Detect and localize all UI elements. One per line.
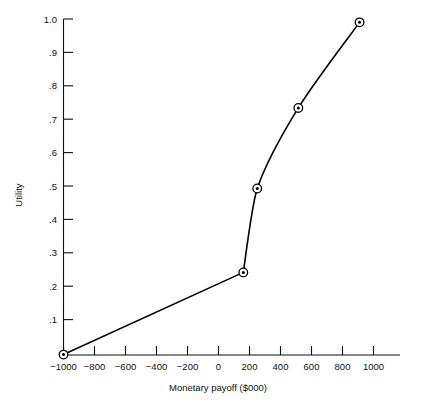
- utility-curve: [64, 22, 360, 354]
- y-axis-title: Utility: [13, 183, 24, 206]
- y-tick-label: .6: [49, 147, 57, 158]
- x-tick-label: −600: [115, 361, 136, 372]
- x-tick-label: 0: [216, 361, 221, 372]
- y-tick-marks: [64, 19, 74, 320]
- x-tick-label: 800: [335, 361, 351, 372]
- x-tick-label: 400: [273, 361, 289, 372]
- data-point-marker: [355, 18, 364, 27]
- data-point-marker: [294, 104, 303, 113]
- chart-svg: 1.0 .9 .8 .7 .6 .5 .4 .3 .2 .1: [0, 0, 421, 407]
- y-tick-label: 1.0: [44, 14, 57, 25]
- data-point-markers: [59, 18, 364, 359]
- y-tick-labels: 1.0 .9 .8 .7 .6 .5 .4 .3 .2 .1: [44, 14, 57, 326]
- data-point-marker: [239, 268, 248, 277]
- y-tick-label: .1: [49, 314, 57, 325]
- x-tick-label: 200: [242, 361, 258, 372]
- x-tick-label: −200: [177, 361, 198, 372]
- y-tick-label: .8: [49, 80, 57, 91]
- x-tick-label: 1000: [363, 361, 384, 372]
- x-tick-labels: −1000 −800 −600 −400 −200 0 200 400 600 …: [50, 361, 384, 372]
- axes-group: [64, 19, 401, 355]
- y-tick-label: .3: [49, 247, 57, 258]
- y-tick-label: .4: [49, 214, 57, 225]
- utility-chart: 1.0 .9 .8 .7 .6 .5 .4 .3 .2 .1: [0, 0, 421, 407]
- x-tick-label: −800: [84, 361, 105, 372]
- data-point-marker: [253, 184, 262, 193]
- y-tick-label: .2: [49, 281, 57, 292]
- x-tick-label: −1000: [50, 361, 77, 372]
- x-tick-marks: [64, 346, 374, 355]
- x-tick-label: −400: [146, 361, 167, 372]
- x-tick-label: 600: [304, 361, 320, 372]
- x-axis-title: Monetary payoff ($000): [169, 382, 267, 393]
- y-tick-label: .9: [49, 47, 57, 58]
- data-point-marker: [59, 350, 68, 359]
- y-tick-label: .5: [49, 181, 57, 192]
- y-tick-label: .7: [49, 114, 57, 125]
